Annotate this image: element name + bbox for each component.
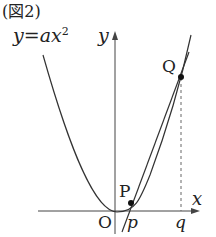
y-axis-arrow-icon — [112, 31, 118, 40]
point-q-label: Q — [162, 58, 176, 75]
y-axis-label: y — [98, 26, 109, 45]
tick-p-label: p — [127, 214, 138, 231]
tick-q-label: q — [175, 214, 186, 231]
equation-label: y=ax2 — [13, 26, 69, 45]
equation-exponent: 2 — [62, 25, 69, 38]
x-axis-label: x — [192, 190, 202, 208]
origin-label: O — [98, 214, 112, 231]
figure-caption: (図2) — [2, 4, 41, 20]
equation-base: y=ax — [13, 24, 62, 46]
point-p-label: P — [119, 183, 130, 200]
figure: (図2) y=ax2 y x O P Q p q — [0, 0, 216, 237]
point-q-marker — [178, 74, 184, 80]
